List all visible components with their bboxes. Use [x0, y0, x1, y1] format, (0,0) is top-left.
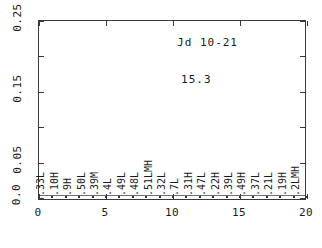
y-axis-tick-label-text: 0.25 — [11, 3, 24, 32]
y-axis-tick-right — [300, 163, 305, 164]
y-axis-tick-label: 0.25 — [0, 11, 34, 24]
data-point-label: .7L — [169, 178, 180, 196]
x-axis-tick-top — [173, 21, 174, 26]
data-point-marker — [226, 196, 228, 198]
data-point-label: .47L — [196, 172, 207, 196]
data-point-marker — [145, 196, 147, 198]
y-axis-tick-right — [300, 21, 305, 22]
data-point-marker — [118, 196, 120, 198]
data-point-marker — [252, 196, 254, 198]
data-point-label: .4L — [102, 178, 113, 196]
data-point-label: .10H — [49, 172, 60, 196]
data-point-label: .49L — [116, 172, 127, 196]
data-point-label: .9H — [62, 178, 73, 196]
data-point-marker — [266, 196, 268, 198]
y-axis-tick-label: 0.05 — [0, 153, 34, 166]
x-axis-tick-top — [39, 21, 40, 26]
y-axis-tick — [39, 56, 44, 57]
y-axis-tick-label: 0.15 — [0, 82, 34, 95]
x-axis-tick-label: 10 — [157, 206, 187, 219]
x-axis-tick-top — [106, 21, 107, 26]
data-point-label: .31H — [183, 172, 194, 196]
data-point-label: .21L — [263, 172, 274, 196]
x-axis-tick-label: 0 — [23, 206, 53, 219]
data-point-marker — [132, 196, 134, 198]
y-axis-tick-right — [300, 92, 305, 93]
y-axis-tick — [39, 92, 44, 93]
data-point-marker — [239, 196, 241, 198]
data-point-marker — [212, 196, 214, 198]
chart-figure: 0.00.050.150.25 05101520 Jd 10-21 15.3 .… — [0, 0, 322, 248]
x-axis-tick-label: 20 — [291, 206, 321, 219]
y-axis-tick — [39, 163, 44, 164]
plot-area: Jd 10-21 15.3 .33L.10H.9H.50L.39M.4L.49L… — [38, 20, 306, 200]
x-axis-tick-top — [307, 21, 308, 26]
data-point-marker — [279, 196, 281, 198]
data-point-marker — [65, 196, 67, 198]
data-point-label: .39L — [223, 172, 234, 196]
data-point-marker — [105, 196, 107, 198]
data-point-label: .2LMH — [290, 166, 301, 196]
data-point-label: .22H — [210, 172, 221, 196]
data-point-label: .48L — [129, 172, 140, 196]
data-point-marker — [306, 196, 308, 198]
data-point-marker — [78, 196, 80, 198]
data-point-label: .39M — [89, 172, 100, 196]
data-point-label: .51LMH — [143, 160, 154, 196]
data-point-marker — [159, 196, 161, 198]
data-point-marker — [172, 196, 174, 198]
data-point-label: .33L — [35, 172, 46, 196]
data-point-marker — [92, 196, 94, 198]
data-point-marker — [293, 196, 295, 198]
y-axis-tick-label-text: 0.05 — [11, 145, 24, 174]
x-axis-tick-label: 5 — [90, 206, 120, 219]
y-axis-tick-label-text: 0.0 — [11, 184, 24, 205]
data-point-marker — [51, 196, 53, 198]
data-point-label: .37L — [250, 172, 261, 196]
y-axis-tick-label: 0.0 — [0, 188, 34, 201]
value-annotation: 15.3 — [181, 73, 212, 86]
data-point-label: .32L — [156, 172, 167, 196]
y-axis-tick-label-text: 0.15 — [11, 74, 24, 103]
data-point-label: .19H — [277, 172, 288, 196]
y-axis-tick-right — [300, 127, 305, 128]
data-point-marker — [199, 196, 201, 198]
y-axis-tick-right — [300, 198, 305, 199]
chart-title-annotation: Jd 10-21 — [177, 36, 238, 49]
x-axis-tick-top — [240, 21, 241, 26]
y-axis-tick — [39, 127, 44, 128]
data-point-label: .49H — [236, 172, 247, 196]
data-point-marker — [185, 196, 187, 198]
y-axis-tick-right — [300, 56, 305, 57]
data-point-label: .50L — [76, 172, 87, 196]
x-axis-tick-label: 15 — [224, 206, 254, 219]
